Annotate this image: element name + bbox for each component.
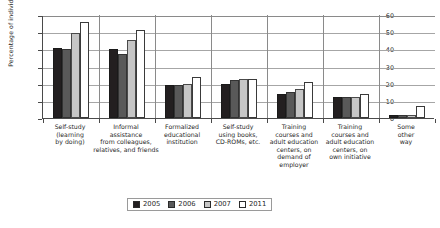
bar-2006[interactable]: [118, 54, 127, 118]
plot-wrapper: [42, 16, 434, 119]
legend-label-2006: 2006: [178, 201, 195, 208]
group-separator: [267, 15, 268, 118]
bar-group: [379, 15, 435, 118]
bar-group: [155, 15, 211, 118]
group-separator: [323, 15, 324, 118]
legend-label-2011: 2011: [249, 201, 266, 208]
bar-2007[interactable]: [295, 89, 304, 118]
legend-item-2006[interactable]: 2006: [168, 201, 195, 208]
legend-swatch-icon-2006: [168, 201, 175, 208]
bar-group: [43, 15, 99, 118]
bar-2011[interactable]: [136, 30, 145, 118]
bar-2006[interactable]: [342, 97, 351, 118]
legend-label-2005: 2005: [143, 201, 160, 208]
x-axis-category-labels: Self-study (learning by doing)Informal a…: [42, 123, 434, 183]
bar-2005[interactable]: [277, 94, 286, 118]
bar-2005[interactable]: [53, 48, 62, 118]
bar-2005[interactable]: [109, 49, 118, 118]
chart-legend: 2005 2006 2007 2011: [127, 198, 272, 211]
bar-2011[interactable]: [248, 79, 257, 118]
x-axis-label: Some other way: [389, 123, 423, 146]
bar-2006[interactable]: [286, 92, 295, 118]
x-axis-label: Informal assistance from colleagues, rel…: [89, 123, 163, 153]
bar-2006[interactable]: [174, 85, 183, 118]
group-separator: [99, 15, 100, 118]
bar-2005[interactable]: [333, 97, 342, 118]
bar-group: [267, 15, 323, 118]
y-tick-mark-0: [38, 119, 42, 120]
bar-chart: Percentage of individuals (%) 0102030405…: [0, 0, 440, 228]
bar-2007[interactable]: [183, 84, 192, 118]
legend-label-2007: 2007: [214, 201, 231, 208]
bar-2011[interactable]: [304, 82, 313, 118]
bar-2007[interactable]: [239, 79, 248, 118]
bar-2007[interactable]: [351, 97, 360, 118]
bar-group: [211, 15, 267, 118]
x-axis-label: Training courses and adult education cen…: [261, 123, 327, 169]
legend-swatch-icon-2011: [239, 201, 246, 208]
bar-2006[interactable]: [230, 80, 239, 118]
bar-2007[interactable]: [71, 33, 80, 118]
plot-area: [42, 16, 434, 119]
x-axis-label: Training courses and adult education cen…: [319, 123, 381, 161]
group-separator: [155, 15, 156, 118]
bar-2007[interactable]: [127, 40, 136, 118]
group-separator: [211, 15, 212, 118]
bar-2011[interactable]: [416, 106, 425, 118]
bar-2005[interactable]: [389, 115, 398, 118]
bar-2005[interactable]: [165, 85, 174, 118]
bar-group: [323, 15, 379, 118]
bar-2007[interactable]: [407, 115, 416, 118]
bar-2005[interactable]: [221, 84, 230, 118]
legend-item-2005[interactable]: 2005: [133, 201, 160, 208]
bar-2006[interactable]: [62, 49, 71, 118]
legend-swatch-icon-2005: [133, 201, 140, 208]
legend-item-2007[interactable]: 2007: [204, 201, 231, 208]
x-axis-label: Self-study using books, CD-ROMs, etc.: [209, 123, 267, 146]
bar-2011[interactable]: [80, 22, 89, 118]
group-separator: [379, 15, 380, 118]
x-tick-mark: [435, 119, 436, 123]
bar-2011[interactable]: [192, 77, 201, 118]
bar-2006[interactable]: [398, 115, 407, 118]
x-axis-label: Formalized educational institution: [153, 123, 211, 146]
bar-group: [99, 15, 155, 118]
legend-item-2011[interactable]: 2011: [239, 201, 266, 208]
legend-swatch-icon-2007: [204, 201, 211, 208]
bar-2011[interactable]: [360, 94, 369, 118]
y-axis-title: Percentage of individuals (%): [5, 0, 17, 75]
